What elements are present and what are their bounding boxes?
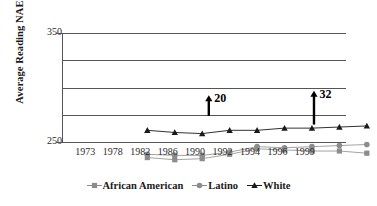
gridline-300 (62, 88, 346, 89)
chart-legend: African AmericanLatinoWhite (0, 180, 377, 191)
naep-reading-score-chart: Average Reading NAEP Score 250350 197319… (0, 0, 377, 206)
square-marker (87, 185, 100, 186)
data-point (364, 142, 370, 148)
data-point (364, 151, 369, 156)
y-axis-ticks: 250350 (18, 0, 62, 206)
legend-label: White (263, 180, 290, 191)
plot-area (62, 33, 346, 142)
circle-marker (192, 185, 205, 186)
legend-label: African American (103, 180, 184, 191)
data-point (337, 143, 343, 149)
series-layer (124, 66, 377, 175)
series-white (144, 123, 370, 136)
gridline-250 (62, 142, 346, 143)
y-tick-label-350: 350 (28, 26, 62, 37)
legend-item-latino[interactable]: Latino (192, 180, 238, 191)
legend-item-white[interactable]: White (247, 180, 290, 191)
legend-item-african-american[interactable]: African American (87, 180, 184, 191)
legend-label: Latino (208, 180, 238, 191)
gridline-350 (62, 33, 346, 34)
gridline-275 (62, 115, 346, 116)
x-tick-label-1999: 1999 (285, 146, 325, 157)
data-point (144, 127, 150, 133)
data-point (337, 148, 342, 153)
triangle-marker (247, 185, 260, 186)
gridline-325 (62, 60, 346, 61)
y-tick-label-250: 250 (28, 135, 62, 146)
